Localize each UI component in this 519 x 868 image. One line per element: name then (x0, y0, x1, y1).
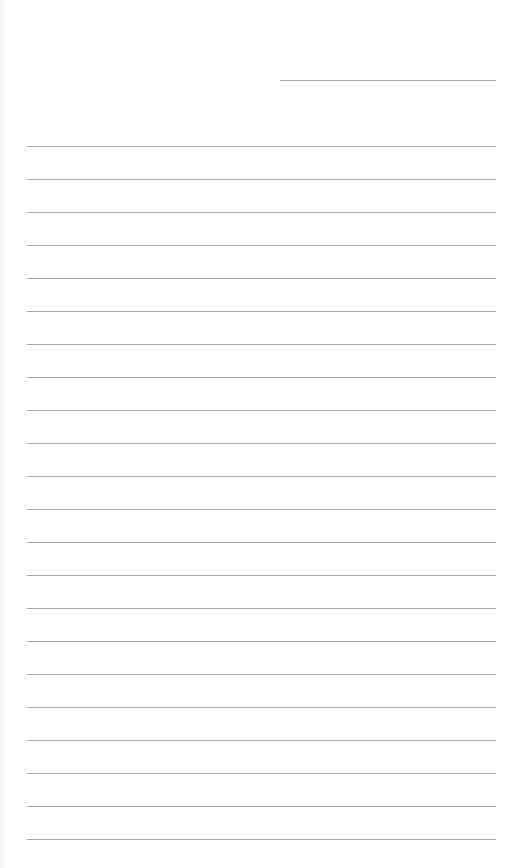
notepaper-page (0, 0, 519, 868)
ruled-line (27, 245, 496, 246)
ruled-line (27, 542, 496, 543)
ruled-line (27, 311, 496, 312)
ruled-line (27, 575, 496, 576)
ruled-line (27, 641, 496, 642)
ruled-line (27, 344, 496, 345)
ruled-line (27, 476, 496, 477)
ruled-line (27, 839, 496, 840)
ruled-line (27, 740, 496, 741)
ruled-line (27, 509, 496, 510)
ruled-line (27, 410, 496, 411)
ruled-line (27, 443, 496, 444)
ruled-line (27, 674, 496, 675)
ruled-line (27, 179, 496, 180)
header-write-line (280, 80, 496, 81)
ruled-line (27, 278, 496, 279)
ruled-line (27, 806, 496, 807)
ruled-line (27, 773, 496, 774)
ruled-line (27, 212, 496, 213)
ruled-line (27, 608, 496, 609)
ruled-line (27, 707, 496, 708)
ruled-line (27, 146, 496, 147)
ruled-line (27, 377, 496, 378)
binding-edge-shadow (0, 0, 6, 868)
